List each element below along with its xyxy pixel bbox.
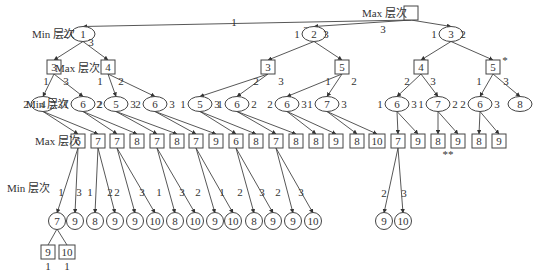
edge-n9-y18 (397, 112, 418, 135)
edge-label: 1 (43, 75, 49, 87)
max-node-w1: 91 (41, 245, 55, 272)
left-annotation: 2 (96, 98, 102, 110)
min-node-n12: 8 (508, 97, 532, 112)
node-value: 6 (233, 135, 239, 147)
max-node-y7: 7 (189, 134, 203, 148)
edge-n10-y20 (438, 112, 458, 135)
nodes: 123213312343545*423612523623513612623713… (23, 6, 532, 272)
min-node-n4: 623 (135, 97, 175, 112)
level-label: Max 层次 (55, 61, 100, 74)
node-value: 7 (95, 135, 101, 147)
min-node-n7: 623 (267, 97, 307, 112)
edge-label: 2 (351, 75, 357, 87)
left-annotation: 2 (460, 98, 466, 110)
node-value: 8 (435, 135, 441, 147)
node-value: 8 (174, 135, 180, 147)
node-value: 8 (134, 135, 140, 147)
edge-n1-y1 (43, 112, 78, 135)
edge-z1-w2 (57, 229, 67, 245)
level-label: Min 层次 (7, 181, 50, 194)
edge-m2-x3 (268, 42, 314, 61)
level-label: Max 层次 (362, 6, 407, 19)
edge-n11-y22 (480, 112, 499, 135)
node-value: 8 (313, 135, 319, 147)
edge-label: 2 (195, 186, 201, 198)
node-value: 6 (394, 98, 400, 110)
edge-label: 2 (404, 75, 410, 87)
edge-n2-y3 (83, 112, 117, 135)
edge-label: 2 (114, 186, 120, 198)
max-node-y12: 8 (289, 134, 303, 148)
min-node-z3: 8 (87, 213, 104, 230)
right-annotation: 2 (251, 98, 257, 110)
leaf-value: 1 (45, 260, 51, 272)
edge-label: 3 (380, 23, 386, 35)
node-value: 9 (290, 215, 296, 227)
min-node-m2: 213 (294, 27, 329, 42)
edge-n5-y9 (200, 112, 236, 135)
edge-label: 2 (237, 186, 243, 198)
edge-y9-z12 (236, 148, 273, 213)
min-node-z13: 9 (285, 213, 302, 230)
edge-label: 1 (156, 186, 162, 198)
edge-y5-z7 (157, 148, 175, 213)
node-value: 10 (372, 135, 384, 147)
right-annotation: 3 (88, 36, 94, 48)
node-value: 10 (150, 215, 162, 227)
max-node-y9: 6 (229, 134, 243, 148)
left-annotation: 1 (377, 98, 383, 110)
edge-y7-z10 (196, 148, 233, 213)
min-node-z8: 10 (187, 213, 204, 230)
max-node-y19: 8 (431, 134, 445, 148)
edge-y3-z6 (117, 148, 155, 213)
right-annotation: 3 (494, 98, 500, 110)
node-value: 6 (284, 98, 290, 110)
level-label: Min 层次 (32, 27, 75, 40)
right-annotation: 3 (323, 28, 329, 40)
min-node-z9: 9 (207, 213, 224, 230)
right-annotation: 3 (411, 98, 417, 110)
level-label: Min 层次 (26, 97, 69, 110)
min-node-n11: 623 (460, 97, 500, 112)
edge-n6-y12 (237, 112, 296, 135)
edge-root-m3 (411, 20, 451, 27)
max-node-x6: 5* (486, 54, 508, 74)
max-node-x5: 4 (414, 60, 428, 74)
node-value: 8 (293, 135, 299, 147)
edge-label: 1 (97, 75, 103, 87)
max-node-y21: 8 (472, 134, 486, 148)
min-node-z14: 10 (305, 213, 322, 230)
edge-y7-z9 (196, 148, 215, 213)
min-node-z11: 8 (246, 213, 263, 230)
node-value: 5 (113, 98, 119, 110)
node-value: 8 (253, 135, 259, 147)
node-value: 7 (114, 135, 120, 147)
edge-label: 3 (139, 186, 145, 198)
edge-n11-y21 (479, 112, 480, 135)
edge-m3-x5 (421, 42, 451, 61)
edge-label: 3 (278, 75, 284, 87)
edges (43, 20, 520, 245)
node-value: 7 (273, 135, 279, 147)
node-value: 9 (496, 135, 502, 147)
game-tree-diagram: 1231312231223131312231321232323 12321331… (0, 0, 535, 278)
edge-y17-z16 (398, 148, 403, 213)
right-annotation: 2 (452, 98, 458, 110)
min-node-z2: 9 (67, 213, 84, 230)
node-value: 10 (228, 215, 240, 227)
node-value: 4 (418, 61, 424, 73)
right-annotation: 3 (169, 98, 175, 110)
left-annotation: 1 (418, 98, 424, 110)
edge-n9-y17 (397, 112, 398, 135)
node-value: 9 (270, 215, 276, 227)
node-value: 7 (193, 135, 199, 147)
node-value: 6 (80, 98, 86, 110)
node-value: 3 (448, 28, 454, 40)
max-node-y17: 7 (391, 134, 405, 148)
edge-x6-n11 (480, 74, 493, 97)
max-node-y11: 7 (269, 134, 283, 148)
left-annotation: 1 (307, 98, 313, 110)
node-value: 8 (354, 135, 360, 147)
max-node-y5: 7 (150, 134, 164, 148)
min-node-z1: 7 (49, 213, 66, 230)
